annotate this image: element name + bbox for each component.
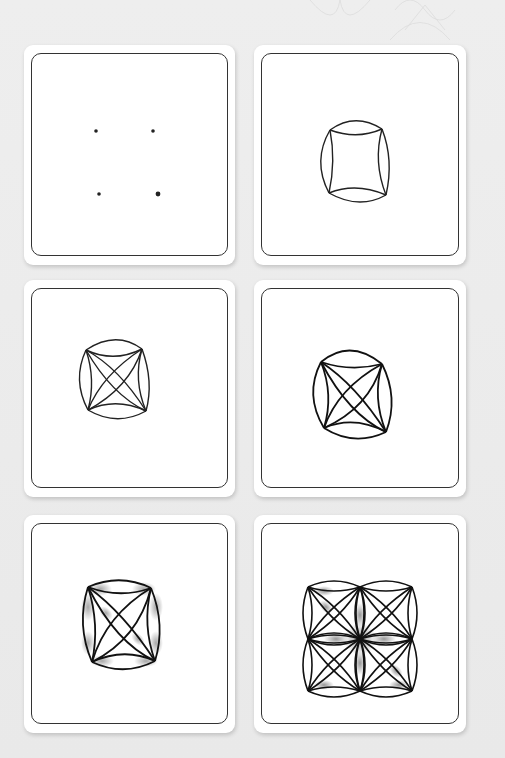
tile-step-6 bbox=[254, 515, 466, 733]
tile-step-1 bbox=[24, 45, 235, 265]
four-dots-drawing bbox=[24, 45, 235, 265]
shaded-pattern-drawing bbox=[24, 515, 235, 733]
tile-step-4 bbox=[254, 280, 466, 497]
pillow-arcs-drawing bbox=[254, 45, 466, 265]
tile-step-5 bbox=[24, 515, 235, 733]
repeated-grid-pattern-drawing bbox=[254, 515, 466, 733]
crossed-leaves-drawing bbox=[24, 280, 235, 497]
background-pattern-decoration bbox=[300, 0, 470, 50]
refined-leaves-drawing bbox=[254, 280, 466, 497]
tile-step-3 bbox=[24, 280, 235, 497]
tile-step-2 bbox=[254, 45, 466, 265]
